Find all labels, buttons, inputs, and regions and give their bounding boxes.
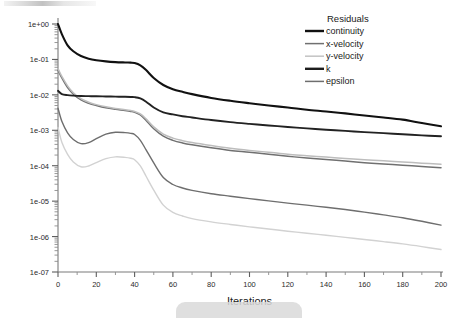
series-line-k [58, 91, 441, 136]
x-tick-label: 100 [243, 280, 256, 289]
series-line-epsilon [58, 108, 441, 225]
y-tick-label: 1e-06 [30, 233, 49, 242]
x-tick-label: 160 [358, 280, 371, 289]
y-tick-label: 1e-05 [30, 197, 49, 206]
series-line-x-velocity [58, 70, 441, 168]
y-tick-label: 1e+00 [28, 20, 49, 29]
legend-label-y-velocity: y-velocity [326, 51, 364, 61]
x-tick-label: 60 [169, 280, 177, 289]
legend-label-continuity: continuity [326, 26, 365, 36]
x-tick-label: 120 [282, 280, 295, 289]
y-tick-label: 1e-03 [30, 126, 49, 135]
legend-label-epsilon: epsilon [326, 76, 355, 86]
legend-label-x-velocity: x-velocity [326, 39, 364, 49]
x-tick-label: 20 [92, 280, 100, 289]
x-tick-label: 80 [207, 280, 215, 289]
y-tick-label: 1e-01 [30, 55, 49, 64]
legend-label-k: k [326, 64, 331, 74]
x-tick-label: 140 [320, 280, 333, 289]
y-tick-label: 1e-07 [30, 268, 49, 277]
x-tick-label: 0 [56, 280, 60, 289]
cropped-bottom-widget [176, 302, 302, 318]
series-line-epsilon-low [58, 127, 441, 249]
x-tick-label: 180 [396, 280, 409, 289]
legend-title: Residuals [327, 13, 369, 24]
series-line-continuity [58, 24, 441, 126]
y-tick-label: 1e-02 [30, 91, 49, 100]
y-tick-label: 1e-04 [30, 162, 49, 171]
x-tick-label: 40 [130, 280, 138, 289]
x-tick-label: 200 [435, 280, 448, 289]
